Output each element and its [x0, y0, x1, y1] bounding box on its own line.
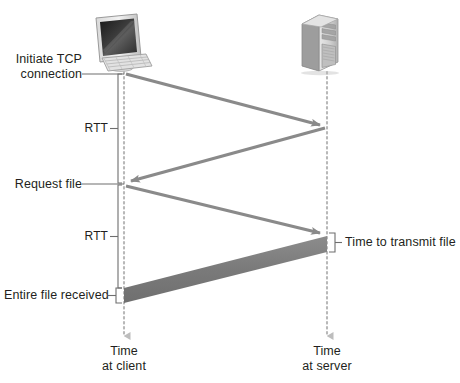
desktop-computer-icon	[96, 14, 152, 71]
label-initiate-tcp-line1: Initiate TCP	[8, 52, 82, 67]
axis-label-server-line2: at server	[287, 359, 367, 374]
axis-label-server: Time at server	[287, 344, 367, 374]
label-time-to-transmit-file-text: Time to transmit file	[345, 235, 456, 249]
file-transfer-band	[124, 236, 327, 303]
label-request-file-text: Request file	[15, 177, 82, 191]
label-entire-file-received-text: Entire file received	[4, 288, 109, 302]
rtt-bracket-2	[110, 185, 122, 288]
label-request-file: Request file	[8, 177, 82, 192]
synack-arrow	[131, 128, 325, 181]
rtt-bracket-1	[110, 74, 122, 183]
label-entire-file-received: Entire file received	[4, 288, 108, 303]
label-rtt-2-text: RTT	[85, 229, 108, 243]
server-tower-icon	[301, 15, 339, 75]
label-time-to-transmit-file: Time to transmit file	[345, 235, 456, 250]
http-response-time-diagram: Initiate TCP connection Request file Ent…	[0, 0, 460, 383]
label-rtt-1-text: RTT	[85, 121, 108, 135]
label-rtt-1: RTT	[58, 121, 108, 136]
axis-label-client-line1: Time	[84, 344, 164, 359]
label-initiate-tcp: Initiate TCP connection	[8, 52, 82, 82]
time-to-transmit-bracket	[329, 233, 342, 252]
entire-file-received-bracket	[108, 288, 122, 303]
label-rtt-2: RTT	[58, 229, 108, 244]
label-initiate-tcp-line2: connection	[8, 67, 82, 82]
request-arrow	[126, 186, 320, 233]
axis-label-server-line1: Time	[287, 344, 367, 359]
syn-arrow	[126, 74, 320, 125]
axis-label-client-line2: at client	[84, 359, 164, 374]
axis-label-client: Time at client	[84, 344, 164, 374]
